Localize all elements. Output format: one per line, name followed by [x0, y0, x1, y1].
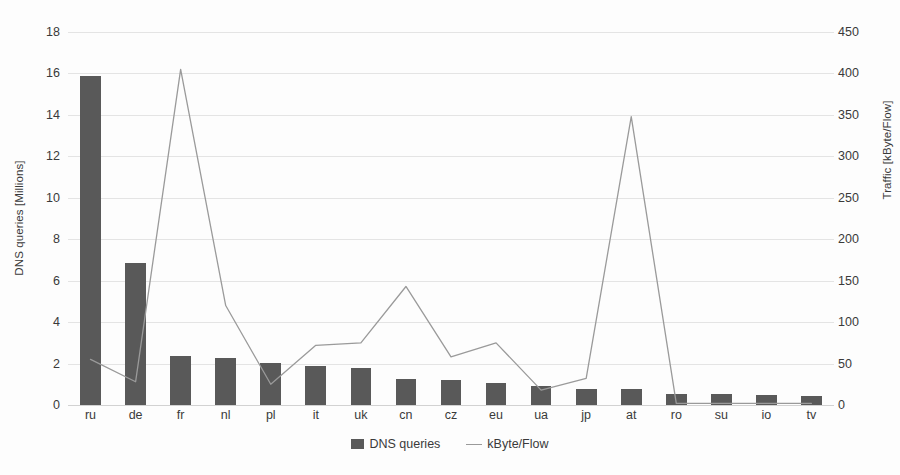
y-axis-right-tick-label: 250 — [838, 192, 859, 205]
line-swatch-icon — [466, 444, 482, 445]
y-axis-right-tick-label: 200 — [838, 233, 859, 246]
y-axis-left-tick-label: 8 — [53, 233, 60, 246]
x-axis-label-io: io — [762, 408, 772, 422]
x-axis-label-cn: cn — [399, 408, 412, 422]
y-axis-right-tick-label: 50 — [838, 357, 852, 370]
y-axis-right-tick-label: 100 — [838, 316, 859, 329]
y-axis-right-tick-label: 450 — [838, 26, 859, 39]
line-series-kbyte-per-flow — [68, 32, 834, 405]
x-axis-label-pl: pl — [266, 408, 276, 422]
y-axis-left-tick-label: 16 — [46, 67, 60, 80]
y-axis-left-tick-label: 12 — [46, 150, 60, 163]
x-axis-label-nl: nl — [221, 408, 231, 422]
line-series-svg — [68, 32, 834, 405]
x-axis-label-su: su — [715, 408, 728, 422]
x-axis-label-it: it — [313, 408, 319, 422]
y-axis-left-tick-label: 6 — [53, 274, 60, 287]
x-axis-label-uk: uk — [354, 408, 367, 422]
x-axis-label-de: de — [129, 408, 143, 422]
x-axis-label-cz: cz — [445, 408, 458, 422]
y-axis-right-ticks: 050100150200250300350400450 — [838, 0, 878, 475]
x-axis-label-at: at — [626, 408, 636, 422]
x-axis-label-eu: eu — [489, 408, 503, 422]
x-axis-label-fr: fr — [177, 408, 185, 422]
y-axis-left-tick-label: 2 — [53, 357, 60, 370]
y-axis-left-ticks: 024681012141618 — [26, 0, 60, 475]
legend-item-dns-queries[interactable]: DNS queries — [351, 437, 440, 451]
bar-swatch-icon — [351, 439, 364, 449]
dns-traffic-chart: DNS queries [Millions] Traffic [kByte/Fl… — [0, 0, 900, 475]
y-axis-right-tick-label: 400 — [838, 67, 859, 80]
x-axis-category-labels: rudefrnlplitukcnczeuuajpatrosuiotv — [68, 408, 834, 428]
y-axis-left-title-text: DNS queries [Millions] — [13, 160, 25, 275]
x-axis-label-tv: tv — [807, 408, 817, 422]
chart-legend: DNS queries kByte/Flow — [0, 437, 900, 451]
x-axis-label-jp: jp — [581, 408, 591, 422]
y-axis-right-tick-label: 300 — [838, 150, 859, 163]
legend-label-dns-queries: DNS queries — [369, 437, 440, 451]
legend-label-kbyte-flow: kByte/Flow — [487, 437, 548, 451]
x-axis-label-ro: ro — [671, 408, 682, 422]
y-axis-left-tick-label: 4 — [53, 316, 60, 329]
x-axis-label-ua: ua — [534, 408, 548, 422]
y-axis-left-tick-label: 0 — [53, 399, 60, 412]
y-axis-left-tick-label: 18 — [46, 26, 60, 39]
y-axis-left-tick-label: 10 — [46, 192, 60, 205]
kbyte-flow-polyline — [91, 69, 812, 403]
y-axis-right-tick-label: 150 — [838, 274, 859, 287]
y-axis-right-title: Traffic [kByte/Flow] — [878, 20, 896, 280]
plot-area — [68, 32, 834, 405]
y-axis-left-tick-label: 14 — [46, 109, 60, 122]
y-axis-right-tick-label: 350 — [838, 109, 859, 122]
y-axis-right-title-text: Traffic [kByte/Flow] — [881, 100, 893, 199]
gridline — [68, 405, 834, 406]
y-axis-right-tick-label: 0 — [838, 399, 845, 412]
legend-item-kbyte-flow[interactable]: kByte/Flow — [466, 437, 548, 451]
x-axis-label-ru: ru — [85, 408, 96, 422]
